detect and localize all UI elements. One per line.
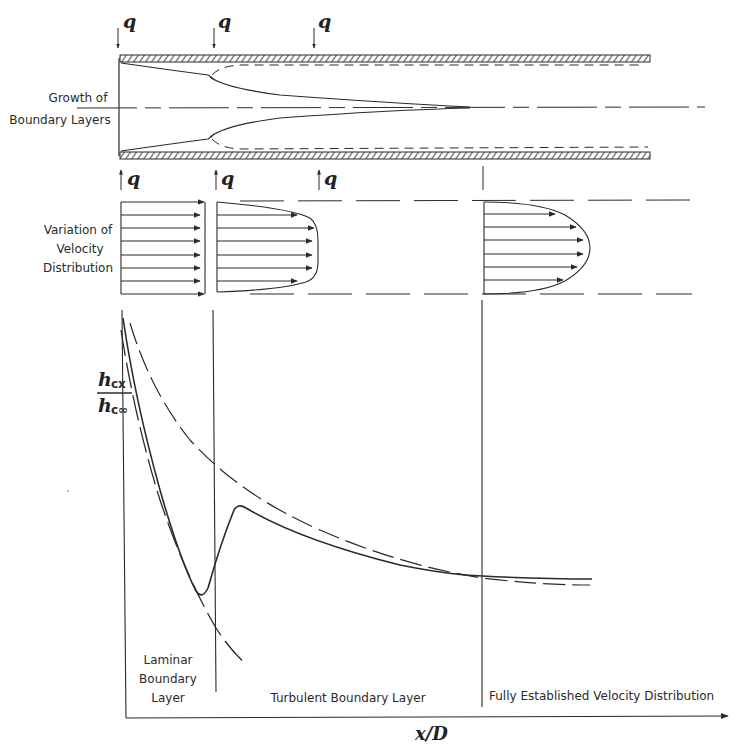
curve-laminar-dashed	[121, 330, 246, 664]
region-turbulent: Turbulent Boundary Layer	[269, 691, 425, 705]
growth-label-1: Growth of	[49, 91, 109, 105]
sublayer-bottom-dashed	[212, 139, 648, 149]
curve-turbulent-entry-dashed	[130, 323, 590, 585]
svg-text:h: h	[98, 394, 112, 416]
y-axis-label: h cx h c∞	[97, 368, 132, 417]
pipe-bottom-wall	[120, 152, 650, 159]
laminar-boundary-top	[121, 63, 214, 80]
heat-flux-bottom: q q q	[121, 167, 337, 190]
curve-local-heat-transfer-solid	[123, 318, 592, 595]
boundary-layer-diagram: q q q q q q Growth of Boundary Layers Va…	[0, 0, 742, 754]
pipe-centerline	[77, 107, 705, 108]
sublayer-top-dashed	[212, 65, 640, 75]
heat-flux-label: q	[127, 167, 140, 189]
parabolic-velocity-profile	[484, 202, 590, 294]
speck	[67, 490, 69, 492]
heat-flux-top: q q q	[118, 10, 331, 48]
region-fully-established: Fully Established Velocity Distribution	[489, 689, 714, 703]
region-laminar-line2: Boundary	[139, 672, 197, 686]
heat-flux-label: q	[221, 167, 234, 189]
velocity-label-1: Variation of	[44, 223, 113, 237]
heat-flux-label: q	[324, 167, 337, 189]
pipe-section	[77, 55, 705, 159]
region-laminar-line1: Laminar	[144, 653, 193, 667]
svg-text:c∞: c∞	[111, 403, 128, 417]
turbulent-boundary-top	[210, 77, 470, 107]
uniform-velocity-profile	[121, 202, 205, 294]
y-axis	[122, 310, 126, 718]
x-axis	[126, 716, 728, 718]
laminar-boundary-bottom	[121, 134, 214, 151]
turbulent-boundary-bottom	[210, 108, 470, 137]
growth-label-2: Boundary Layers	[9, 113, 110, 127]
velocity-label-2: Velocity	[56, 242, 103, 256]
heat-flux-label: q	[218, 10, 231, 32]
heat-flux-label: q	[123, 10, 136, 32]
x-axis-label: x/D	[414, 723, 448, 744]
svg-text:h: h	[98, 368, 112, 390]
velocity-profiles: Variation of Velocity Distribution	[43, 200, 692, 294]
svg-text:cx: cx	[111, 377, 126, 391]
profile-wall-top-dashed	[240, 200, 692, 201]
divider-laminar-turbulent	[213, 310, 216, 692]
developing-velocity-profile	[217, 202, 318, 292]
heat-flux-label: q	[318, 10, 331, 32]
region-laminar-line3: Layer	[151, 691, 185, 705]
velocity-label-3: Distribution	[43, 261, 113, 275]
pipe-top-wall	[120, 55, 650, 62]
